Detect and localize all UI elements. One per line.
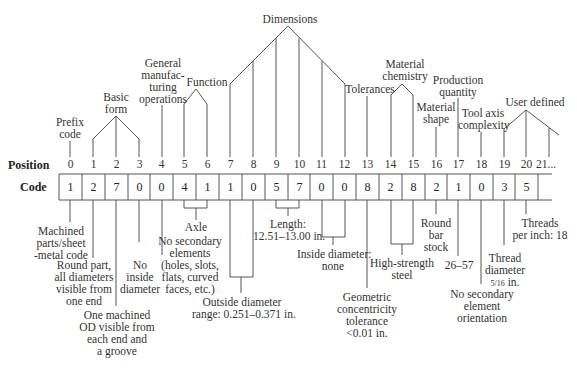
- label-dimensions: Dimensions: [255, 13, 325, 25]
- position-14: 14: [379, 158, 402, 170]
- code-cell-18: 0: [470, 174, 493, 200]
- code-cell-1: 2: [82, 174, 105, 200]
- code-cell-12: 0: [333, 174, 356, 200]
- position-8: 8: [242, 158, 265, 170]
- position-10: 10: [288, 158, 311, 170]
- position-2: 2: [105, 158, 128, 170]
- code-cell-10: 7: [288, 174, 311, 200]
- code-cell-13: 8: [356, 174, 379, 200]
- label-thread-diameter: Threaddiameter 5/16 in.: [483, 252, 527, 290]
- code-cell-0: 1: [59, 174, 82, 200]
- code-cell-20: 5: [515, 174, 538, 200]
- label-round-part: Round part,all diametersvisible fromone …: [52, 259, 116, 307]
- code-cell-5: 4: [173, 174, 196, 200]
- position-12: 12: [333, 158, 356, 170]
- label-tool-axis-complexity: Tool axiscomplexity: [458, 107, 508, 131]
- position-6: 6: [196, 158, 219, 170]
- label-no-secondary-orientation: No secondaryelementorientation: [448, 288, 516, 324]
- label-geometric-concentricity: Geometricconcentricitytolerance<0.01 in.: [337, 291, 397, 339]
- position-0: 0: [59, 158, 82, 170]
- position-11: 11: [310, 158, 333, 170]
- label-material-chemistry: Materialchemistry: [380, 58, 430, 82]
- code-cell-3: 0: [128, 174, 151, 200]
- position-5: 5: [173, 158, 196, 170]
- code-cell-2: 7: [105, 174, 128, 200]
- label-round-bar-stock: Roundbarstock: [418, 217, 454, 253]
- position-3: 3: [128, 158, 151, 170]
- label-quantity-range: 26–57: [440, 259, 478, 271]
- position-16: 16: [425, 158, 448, 170]
- position-18: 18: [470, 158, 493, 170]
- label-user-defined: User defined: [500, 96, 570, 108]
- position-21: 21...: [536, 158, 572, 170]
- label-length: Length:12.51–13.00 in.: [253, 218, 323, 242]
- code-cell-4: 0: [150, 174, 173, 200]
- position-4: 4: [150, 158, 173, 170]
- label-no-secondary-elements: No secondaryelements(holes, slots,flats,…: [155, 235, 225, 295]
- label-prefix-code: Prefixcode: [50, 116, 90, 140]
- code-cell-9: 5: [265, 174, 288, 200]
- label-outside-diameter: Outside diameterrange: 0.251–0.371 in.: [192, 296, 292, 320]
- position-20: 20: [515, 158, 538, 170]
- label-one-machined-od: One machinedOD visible fromeach end anda…: [79, 309, 155, 357]
- code-cell-17: 1: [447, 174, 470, 200]
- label-basic-form: Basicform: [96, 91, 136, 115]
- label-machined-parts: Machinedparts/sheet-metal code: [30, 225, 92, 261]
- position-7: 7: [219, 158, 242, 170]
- label-production-quantity: Productionquantity: [430, 74, 486, 98]
- label-axle: Axle: [176, 221, 216, 233]
- code-cell-15: 8: [402, 174, 425, 200]
- position-row-header: Position: [8, 158, 49, 173]
- label-threads-per-inch: Threadsper inch: 18: [510, 217, 570, 241]
- code-cell-19: 3: [493, 174, 516, 200]
- code-cell-14: 2: [379, 174, 402, 200]
- label-material-shape: Materialshape: [413, 101, 459, 125]
- label-inside-diameter-none: Inside diameter:none: [297, 248, 369, 272]
- code-row-header: Code: [20, 180, 47, 195]
- position-13: 13: [356, 158, 379, 170]
- position-19: 19: [493, 158, 516, 170]
- code-cell-11: 0: [310, 174, 333, 200]
- code-cell-8: 0: [242, 174, 265, 200]
- position-17: 17: [447, 158, 470, 170]
- code-cell-7: 1: [219, 174, 242, 200]
- position-1: 1: [82, 158, 105, 170]
- label-tolerances: Tolerances: [345, 83, 395, 95]
- position-15: 15: [402, 158, 425, 170]
- position-9: 9: [265, 158, 288, 170]
- label-high-strength-steel: High-strengthsteel: [370, 257, 434, 281]
- label-function: Function: [182, 76, 232, 88]
- code-cell-16: 2: [425, 174, 448, 200]
- code-cell-6: 1: [196, 174, 219, 200]
